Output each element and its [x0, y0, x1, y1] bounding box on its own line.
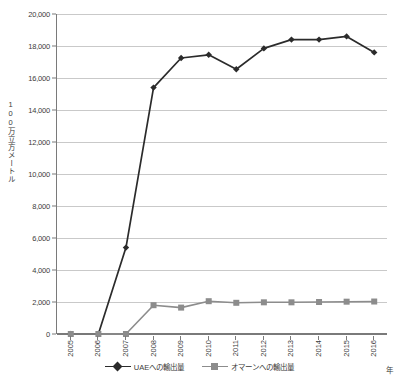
x-tick-label: 2014 — [314, 340, 323, 357]
y-tick-label: 20,000 — [28, 10, 50, 19]
legend-swatch-icon — [202, 362, 228, 371]
x-tick-label: 2005 — [65, 340, 74, 357]
y-tick-label: 10,000 — [28, 170, 50, 179]
y-tick-label: 18,000 — [28, 42, 50, 51]
data-point-marker — [151, 302, 157, 308]
data-point-marker — [371, 299, 377, 305]
series-line — [71, 301, 374, 334]
series-layer — [57, 14, 388, 334]
legend-item-uae[interactable]: UAEへの輸出量 — [105, 361, 184, 372]
data-point-marker — [288, 36, 294, 42]
x-tick-label: 2016 — [369, 340, 378, 357]
x-tick-label: 2006 — [93, 340, 102, 357]
data-point-marker — [288, 299, 294, 305]
x-tick-label: 2010 — [203, 340, 212, 357]
x-tick-label: 2007 — [120, 340, 129, 357]
x-tick-label: 2011 — [231, 340, 240, 356]
y-tick-label: 4,000 — [32, 266, 50, 275]
x-tick-label: 2009 — [176, 340, 185, 357]
data-point-marker — [233, 300, 239, 306]
y-tick-label: 8,000 — [32, 202, 50, 211]
series-uae — [68, 33, 378, 337]
legend-item-oman[interactable]: オマーンへの輸出量 — [202, 361, 294, 372]
data-point-marker — [123, 244, 129, 250]
y-tick-label: 16,000 — [28, 74, 50, 83]
y-tick-label: 14,000 — [28, 106, 50, 115]
series-line — [71, 36, 374, 334]
data-point-marker — [261, 299, 267, 305]
series-oman — [68, 298, 377, 337]
legend-swatch-icon — [105, 362, 131, 371]
plot-area — [56, 14, 387, 334]
data-point-marker — [344, 299, 350, 305]
legend-label: UAEへの輸出量 — [134, 361, 184, 372]
data-point-marker — [316, 36, 322, 42]
x-tick-label: 2008 — [148, 340, 157, 357]
y-tick-label: 2,000 — [32, 298, 50, 307]
y-axis-ticklabels: 02,0004,0006,0008,00010,00012,00014,0001… — [0, 0, 56, 334]
line-chart: 100万立方メートル 02,0004,0006,0008,00010,00012… — [0, 0, 399, 381]
legend-label: オマーンへの輸出量 — [231, 361, 294, 372]
data-point-marker — [206, 52, 212, 58]
data-point-marker — [178, 305, 184, 311]
y-tick-label: 0 — [46, 330, 50, 339]
y-tick-label: 6,000 — [32, 234, 50, 243]
y-tick-label: 12,000 — [28, 138, 50, 147]
x-tick-label: 2013 — [286, 340, 295, 357]
x-tick-label: 2012 — [258, 340, 267, 357]
chart-legend: UAEへの輸出量オマーンへの輸出量 — [0, 358, 399, 374]
data-point-marker — [316, 299, 322, 305]
data-point-marker — [206, 298, 212, 304]
x-tick-label: 2015 — [341, 340, 350, 357]
